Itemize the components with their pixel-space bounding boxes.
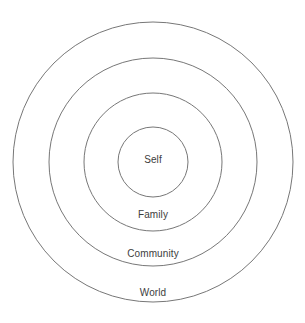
label-community: Community xyxy=(127,248,178,260)
concentric-circles-diagram: Self Family Community World xyxy=(0,0,305,323)
label-family: Family xyxy=(138,209,168,221)
label-world: World xyxy=(140,287,166,299)
label-self: Self xyxy=(144,154,162,166)
